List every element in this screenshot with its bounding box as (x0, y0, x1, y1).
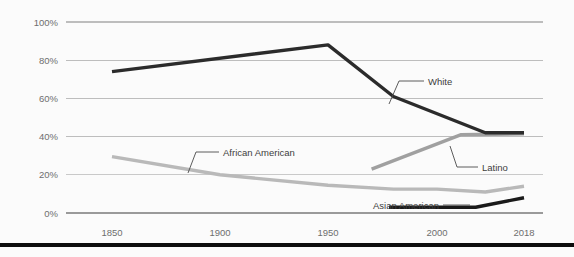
series-label-african-american: African American (223, 147, 295, 158)
x-tick-label-2000: 2000 (426, 227, 447, 238)
y-tick-label-80: 80% (39, 55, 59, 66)
x-tick-label-1850: 1850 (101, 227, 122, 238)
series-label-asian-american: Asian American (373, 200, 439, 211)
series-label-latino: Latino (482, 162, 508, 173)
chart-container: 100% 80% 60% 40% 20% 0% 1850 1900 1950 2… (0, 0, 574, 257)
y-tick-label-40: 40% (39, 131, 59, 142)
y-tick-label-100: 100% (34, 17, 59, 28)
x-tick-label-2018: 2018 (513, 227, 534, 238)
line-chart: 100% 80% 60% 40% 20% 0% 1850 1900 1950 2… (0, 0, 574, 257)
bottom-rule (0, 243, 574, 247)
x-tick-label-1900: 1900 (209, 227, 230, 238)
y-tick-label-60: 60% (39, 93, 59, 104)
y-tick-label-0: 0% (44, 208, 58, 219)
series-label-white: White (428, 76, 452, 87)
chart-background (0, 0, 574, 257)
y-tick-label-20: 20% (39, 169, 59, 180)
x-tick-label-1950: 1950 (317, 227, 338, 238)
